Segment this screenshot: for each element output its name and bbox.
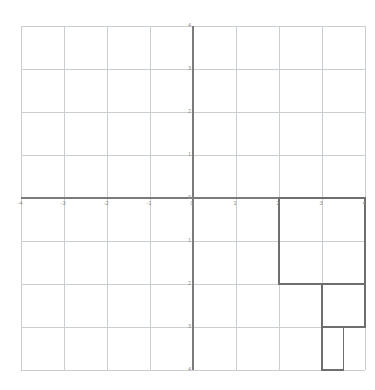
y-tick-label: 4 bbox=[188, 23, 191, 29]
y-tick-label: 2 bbox=[188, 109, 191, 115]
x-tick-label: 2 bbox=[276, 201, 279, 207]
y-tick-label: 3 bbox=[188, 66, 191, 72]
y-tick-label: 2 bbox=[188, 281, 191, 287]
x-tick-label: 4 bbox=[362, 201, 365, 207]
x-tick-label: -2 bbox=[104, 201, 109, 207]
x-tick-label: -4 bbox=[18, 201, 23, 207]
x-tick-label: 0 bbox=[190, 201, 193, 207]
coordinate-plane: -4-3-2-101234 432101234 bbox=[0, 0, 375, 390]
y-tick-label: 0 bbox=[188, 195, 191, 201]
square-small bbox=[322, 327, 344, 370]
x-tick-label: -3 bbox=[61, 201, 66, 207]
x-tick-label: 3 bbox=[319, 201, 322, 207]
square-medium bbox=[322, 284, 365, 327]
y-tick-label: 3 bbox=[188, 324, 191, 330]
y-tick-label: 1 bbox=[188, 238, 191, 244]
y-tick-label: 4 bbox=[188, 367, 191, 373]
y-tick-label: 1 bbox=[188, 152, 191, 158]
x-tick-label: 1 bbox=[233, 201, 236, 207]
x-tick-label: -1 bbox=[147, 201, 152, 207]
